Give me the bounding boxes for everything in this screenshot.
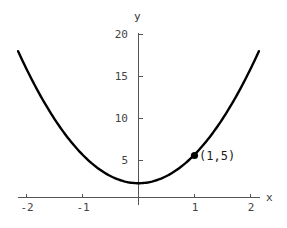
x-tick-label-2: 2: [236, 201, 266, 214]
point-annotation-label: (1,5): [199, 149, 235, 163]
y-tick-label-15: 15: [94, 70, 128, 83]
x-axis-label: x: [266, 191, 273, 204]
x-tick-label-1: 1: [180, 201, 210, 214]
y-tick-label-10: 10: [94, 112, 128, 125]
x-tick-label-neg2: -2: [12, 201, 42, 214]
y-tick-label-20: 20: [94, 28, 128, 41]
data-point-marker: [191, 152, 198, 159]
x-tick-label-neg1: -1: [68, 201, 98, 214]
plot-canvas: [0, 0, 287, 228]
parabola-chart-figure: 20 15 10 5 -2 -1 1 2 y x (1,5): [0, 0, 287, 228]
y-axis-label: y: [134, 10, 141, 23]
y-tick-label-5: 5: [94, 154, 128, 167]
